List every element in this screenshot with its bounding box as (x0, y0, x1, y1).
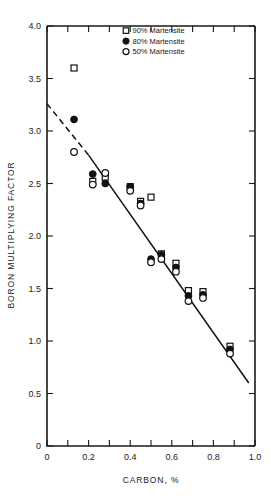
x-tick-label: 0 (44, 452, 49, 462)
y-tick-label: 3.0 (28, 126, 41, 136)
legend-label: 80% Martensite (133, 37, 185, 46)
scatter-plot: 00.20.40.60.81.000.51.01.52.02.53.03.54.… (0, 0, 271, 496)
data-point (227, 350, 234, 357)
data-point (71, 149, 78, 156)
y-axis-title: BORON MULTIPLYING FACTOR (6, 161, 16, 308)
x-tick-label: 0.2 (82, 452, 95, 462)
x-tick-label: 0.4 (124, 452, 137, 462)
data-point (89, 171, 96, 178)
data-point (102, 170, 109, 177)
legend-item: 80% Martensite (123, 37, 185, 46)
data-point (137, 202, 144, 209)
y-tick-label: 1.0 (28, 336, 41, 346)
data-point (148, 194, 154, 200)
x-axis-title: CARBON, % (123, 475, 180, 485)
chart-figure: 00.20.40.60.81.000.51.01.52.02.53.03.54.… (0, 0, 271, 496)
data-point (71, 65, 77, 71)
data-point (200, 295, 207, 302)
y-tick-label: 0.5 (28, 389, 41, 399)
data-point (173, 268, 180, 275)
y-tick-label: 0 (36, 441, 41, 451)
data-point (127, 188, 134, 195)
data-point (158, 256, 165, 263)
legend-item: 50% Martensite (123, 47, 185, 56)
axis-frame (47, 26, 255, 446)
chart-legend: 90% Martensite80% Martensite50% Martensi… (123, 26, 185, 56)
y-tick-label: 1.5 (28, 284, 41, 294)
data-point (185, 298, 192, 305)
tick-labels: 00.20.40.60.81.000.51.01.52.02.53.03.54.… (28, 21, 261, 462)
legend-item: 90% Martensite (123, 26, 184, 35)
data-points (71, 65, 234, 357)
x-tick-label: 1.0 (249, 452, 262, 462)
data-point (71, 116, 78, 123)
axis-ticks (47, 26, 255, 446)
data-point (148, 259, 155, 266)
trend-line (47, 104, 249, 383)
y-tick-label: 4.0 (28, 21, 41, 31)
data-point (102, 180, 109, 187)
y-tick-label: 2.5 (28, 179, 41, 189)
y-tick-label: 2.0 (28, 231, 41, 241)
x-tick-label: 0.8 (207, 452, 220, 462)
x-tick-label: 0.6 (166, 452, 179, 462)
y-tick-label: 3.5 (28, 74, 41, 84)
data-point (89, 181, 96, 188)
legend-label: 90% Martensite (133, 26, 185, 35)
legend-label: 50% Martensite (133, 47, 185, 56)
